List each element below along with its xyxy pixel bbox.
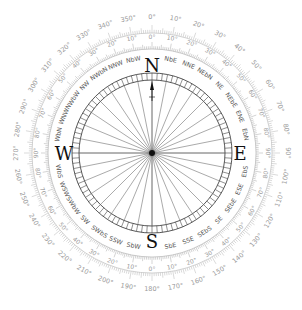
degree-label: 140° (231, 249, 248, 265)
degree-label: 50° (56, 72, 68, 85)
degree-label: 190° (120, 281, 137, 292)
degree-label: 50° (234, 221, 246, 234)
degree-label: 80° (281, 123, 291, 136)
degree-label: 30° (87, 46, 100, 57)
compass-point-label: EbN (241, 128, 250, 142)
degree-label: 60° (264, 78, 277, 92)
degree-label: 130° (248, 232, 264, 249)
compass-point-label: SbE (164, 241, 177, 250)
compass-point-label: NE (214, 80, 225, 91)
degree-label: 40° (221, 57, 234, 69)
degree-label: 10° (166, 34, 178, 43)
degree-label: 170° (167, 281, 184, 292)
compass-point-label: NbE (164, 54, 178, 63)
degree-label: 210° (75, 263, 93, 278)
degree-label: 160° (190, 274, 207, 287)
degree-label: 50° (58, 221, 70, 234)
degree-label: 10° (169, 14, 182, 24)
compass-point-label: NEbE (224, 91, 239, 109)
degree-label: 0° (149, 33, 156, 40)
degree-label: 50° (235, 72, 247, 85)
degree-label: 70° (274, 100, 285, 114)
compass-point-label: WbS (55, 164, 65, 179)
degree-label: 60° (45, 88, 56, 101)
degree-label: 90° (284, 147, 292, 159)
degree-label: 80° (33, 127, 42, 139)
degree-label: 90° (32, 148, 39, 159)
degree-label: 50° (250, 58, 264, 72)
degree-label: 90° (265, 148, 272, 159)
degree-label: 10° (126, 34, 138, 43)
degree-label: 80° (261, 167, 270, 179)
degree-label: 340° (97, 19, 114, 32)
degree-label: 100° (280, 168, 291, 185)
degree-label: 240° (27, 212, 42, 230)
cardinal-W: W (55, 143, 74, 164)
degree-label: 30° (204, 46, 217, 57)
degree-label: 40° (233, 42, 247, 56)
compass-point-label: SWbS (90, 223, 109, 239)
compass-point-label: NNW (107, 58, 124, 70)
compass-point-label: WbN (53, 126, 63, 142)
compass-point-label: SbW (126, 241, 141, 251)
compass-point-label: NW (78, 79, 91, 92)
degree-label: 60° (248, 88, 259, 101)
degree-label: 220° (56, 249, 73, 265)
degree-label: 20° (106, 38, 118, 48)
degree-label: 70° (257, 107, 267, 119)
degree-label: 110° (273, 191, 286, 208)
degree-label: 20° (192, 19, 206, 30)
degree-label: 20° (186, 38, 198, 48)
degree-label: 300° (27, 76, 42, 94)
degree-label: 270° (12, 145, 20, 161)
degree-label: 30° (213, 29, 227, 42)
compass-point-label: NNE (181, 59, 196, 71)
degree-label: 40° (220, 235, 233, 247)
cardinal-S: S (146, 231, 158, 252)
compass-point-label: SE (213, 214, 224, 225)
degree-label: 70° (37, 107, 47, 119)
compass-rose: 0°10°20°30°40°50°60°70°80°90°100°110°120… (0, 0, 302, 310)
degree-label: 0° (148, 13, 155, 21)
degree-label: 10° (166, 262, 178, 271)
degree-label: 180° (144, 285, 160, 293)
degree-label: 120° (262, 212, 277, 230)
degree-label: 290° (18, 98, 31, 115)
degree-label: 310° (40, 57, 56, 74)
compass-point-label: NbW (125, 54, 141, 64)
compass-point-label: SEbS (196, 224, 213, 239)
cardinal-N: N (144, 55, 160, 76)
compass-point-label: SSW (108, 234, 124, 246)
cardinal-E: E (233, 143, 246, 164)
compass-point-label: ESE (234, 182, 245, 196)
degree-label: 280° (13, 121, 24, 138)
degree-label: 40° (71, 57, 84, 69)
compass-point-label: WSW (59, 180, 72, 198)
degree-label: 80° (263, 127, 272, 139)
degree-label: 40° (72, 235, 85, 247)
degree-label: 320° (56, 41, 73, 57)
compass-point-label: EbS (240, 165, 249, 178)
compass-point-label: NWbW (64, 89, 81, 110)
degree-label: 200° (97, 274, 114, 287)
degree-label: 260° (13, 168, 24, 185)
degree-label: 0° (149, 265, 156, 272)
degree-label: 10° (126, 262, 138, 271)
compass-point-label: SSE (181, 234, 195, 245)
degree-label: 80° (34, 167, 43, 179)
degree-label: 250° (18, 191, 31, 208)
degree-label: 350° (120, 14, 137, 25)
degree-label: 230° (40, 232, 56, 249)
degree-label: 330° (75, 28, 93, 43)
compass-point-label: SEbE (223, 197, 238, 214)
compass-point-label: ENE (235, 109, 246, 123)
center-hub (149, 150, 155, 156)
compass-point-label: SWbW (65, 195, 82, 216)
degree-label: 150° (211, 263, 229, 278)
compass-point-label: SW (79, 214, 91, 226)
